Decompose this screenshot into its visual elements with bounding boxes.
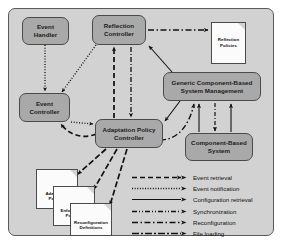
node-label-line: Handler bbox=[34, 31, 57, 39]
page-fold-icon bbox=[70, 170, 77, 177]
node-event-handler[interactable]: Event Handler bbox=[22, 17, 69, 45]
document-label-line: Definitions bbox=[80, 225, 103, 230]
node-label-line: Controller bbox=[102, 134, 155, 142]
node-generic-component-based-system-management[interactable]: Generic Component-Based System Managemen… bbox=[163, 72, 261, 101]
node-label-line: Event bbox=[34, 23, 57, 31]
document-label-line: Reflection bbox=[218, 37, 239, 42]
legend-label-event-notification: Event notification bbox=[189, 185, 239, 192]
legend-line-reconfiguration bbox=[131, 218, 189, 227]
page-fold-icon bbox=[238, 23, 245, 30]
node-label-line: Component-Based bbox=[191, 139, 247, 147]
legend-label-file-loading: File loading bbox=[189, 230, 224, 237]
node-adaptation-policy-controller[interactable]: Adaptation Policy Controller bbox=[95, 119, 163, 148]
node-event-controller[interactable]: Event Controller bbox=[19, 93, 70, 122]
node-label-line: System Management bbox=[172, 87, 253, 95]
legend: Event retrieval Event notification Confi… bbox=[131, 172, 271, 239]
node-label-line: Controller bbox=[104, 30, 134, 38]
node-label-line: System bbox=[191, 147, 247, 155]
legend-line-event-retrieval bbox=[131, 173, 189, 182]
legend-item-event-retrieval: Event retrieval bbox=[131, 172, 271, 183]
legend-item-reconfiguration: Reconfiguration bbox=[131, 217, 271, 228]
document-label-line: Policies bbox=[220, 43, 237, 48]
legend-line-configuration-retrieval bbox=[131, 195, 189, 204]
legend-item-event-notification: Event notification bbox=[131, 183, 271, 194]
node-label-line: Adaptation Policy bbox=[102, 126, 155, 134]
page-fold-icon bbox=[87, 187, 94, 194]
legend-item-configuration-retrieval: Configuration retrieval bbox=[131, 194, 271, 205]
node-label-line: Controller bbox=[29, 108, 59, 116]
node-reflection-controller[interactable]: Reflection Controller bbox=[92, 15, 146, 45]
node-label-line: Reflection bbox=[104, 22, 134, 30]
node-component-based-system[interactable]: Component-Based System bbox=[185, 133, 253, 161]
document-reflection-policies[interactable]: Reflection Policies bbox=[211, 22, 246, 64]
legend-label-synchronization: Synchronization bbox=[189, 208, 236, 215]
node-label-line: Generic Component-Based bbox=[172, 79, 253, 87]
legend-item-synchronization: Synchronization bbox=[131, 206, 271, 217]
legend-label-configuration-retrieval: Configuration retrieval bbox=[189, 196, 253, 203]
architecture-diagram: Event Handler Reflection Controller Gene… bbox=[0, 0, 285, 252]
legend-item-file-loading: File loading bbox=[131, 228, 271, 239]
legend-line-file-loading bbox=[131, 229, 189, 238]
legend-line-event-notification bbox=[131, 184, 189, 193]
node-label-line: Event bbox=[29, 100, 59, 108]
legend-line-synchronization bbox=[131, 207, 189, 216]
document-reconfiguration-definitions[interactable]: Reconfiguration Definitions bbox=[70, 203, 112, 236]
page-fold-icon bbox=[104, 204, 111, 211]
legend-label-reconfiguration: Reconfiguration bbox=[189, 219, 236, 226]
document-label-line: Reconfiguration bbox=[74, 220, 108, 225]
legend-label-event-retrieval: Event retrieval bbox=[189, 174, 232, 181]
